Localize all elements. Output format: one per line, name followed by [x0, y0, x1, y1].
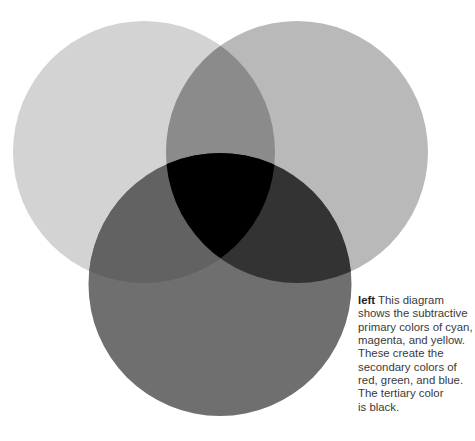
caption-line-5: These create the: [358, 347, 470, 360]
caption-line-6: secondary colors of: [358, 361, 470, 374]
caption-line-7: red, green, and blue.: [358, 374, 470, 387]
caption-line-2: shows the subtractive: [358, 307, 470, 320]
diagram-caption: left This diagram shows the subtractive …: [358, 294, 470, 414]
caption-text: This diagram: [378, 294, 444, 306]
caption-line-4: magenta, and yellow.: [358, 334, 470, 347]
caption-line-8: The tertiary color: [358, 387, 470, 400]
caption-line-1: left This diagram: [358, 294, 470, 307]
caption-lead: left: [358, 294, 375, 306]
caption-line-9: is black.: [358, 401, 470, 414]
caption-line-3: primary colors of cyan,: [358, 321, 470, 334]
